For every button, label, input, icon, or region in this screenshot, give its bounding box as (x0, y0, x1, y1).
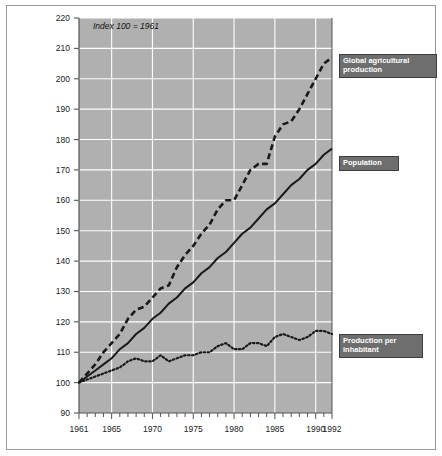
y-tick-label: 200 (56, 74, 70, 84)
callout-population: Population (339, 156, 399, 171)
y-tick-label: 170 (56, 165, 70, 175)
callout-production-per-inhabitant: Production per inhabitant (339, 334, 423, 358)
y-tick-label: 130 (56, 286, 70, 296)
x-tick-label: 1965 (102, 424, 121, 434)
chart-figure: 9010011012013014015016017018019020021022… (0, 0, 442, 456)
y-axis-tick-labels: 9010011012013014015016017018019020021022… (56, 13, 70, 418)
y-tick-label: 110 (56, 347, 70, 357)
y-tick-label: 220 (56, 13, 70, 23)
y-tick-label: 100 (56, 378, 70, 388)
y-tick-label: 180 (56, 135, 70, 145)
y-tick-label: 160 (56, 195, 70, 205)
y-tick-label: 210 (56, 43, 70, 53)
callout-global-agricultural-production: Global agricultural production (339, 54, 437, 78)
y-tick-label: 120 (56, 317, 70, 327)
chart-frame: 9010011012013014015016017018019020021022… (6, 5, 436, 450)
x-tick-label: 1985 (265, 424, 284, 434)
index-note: Index 100 = 1961 (93, 21, 159, 31)
x-tick-label: 1961 (70, 424, 89, 434)
y-tick-label: 150 (56, 226, 70, 236)
y-tick-label: 90 (61, 408, 71, 418)
x-tick-label: 1975 (184, 424, 203, 434)
x-tick-label: 1970 (143, 424, 162, 434)
y-tick-label: 190 (56, 104, 70, 114)
x-tick-label: 1992 (323, 424, 342, 434)
y-tick-label: 140 (56, 256, 70, 266)
x-tick-label: 1980 (225, 424, 244, 434)
x-axis-tick-labels: 19611965197019751980198519901992 (70, 424, 342, 434)
